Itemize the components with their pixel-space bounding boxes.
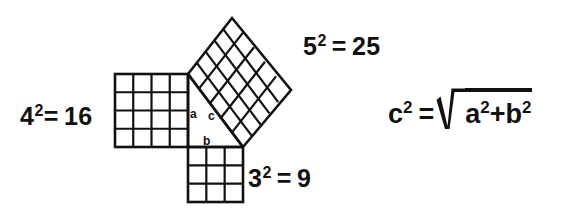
label-square-b-equation: 32=9 [248,166,311,191]
square-b-equals: = [277,164,292,192]
label-square-c-equation: 52=25 [303,34,381,59]
radical-expression: a2+b2 [435,95,531,130]
square-a-result: 16 [64,102,93,130]
square-b-result: 9 [297,164,311,192]
square-c-exponent: 2 [317,32,326,49]
vinculum-bar [465,88,531,92]
label-square-a-equation: 42=16 [20,104,93,129]
square-b-outline [188,147,243,202]
pythagorean-diagram-page: 42=16 52=25 32=9 a c b c2= a2+b2 [0,0,579,215]
radicand-a-exponent: 2 [480,98,489,117]
radicand-a-base: a [465,99,480,129]
square-on-leg-a [115,74,188,147]
square-a-base: 4 [20,102,34,130]
square-a-exponent: 2 [34,102,43,119]
radicand-b-exponent: 2 [522,98,531,117]
square-c-equals: = [332,32,347,60]
square-b-exponent: 2 [262,164,271,181]
square-root-icon [435,86,465,130]
square-on-hypotenuse [188,18,291,147]
pythagorean-formula: c2= a2+b2 [388,95,532,139]
label-triangle-leg-b: b [203,135,210,147]
radicand-plus: + [490,99,506,129]
formula-lhs-exponent: 2 [403,98,412,117]
label-triangle-leg-a: a [190,108,197,120]
formula-equals: = [419,99,435,130]
label-triangle-hypotenuse-c: c [208,110,215,122]
square-c-base: 5 [303,32,317,60]
formula-lhs-base: c [388,99,403,129]
square-c-result: 25 [352,32,381,60]
radicand: a2+b2 [465,97,531,130]
square-b-base: 3 [248,164,262,192]
radicand-b-base: b [506,99,523,129]
square-on-leg-b [188,147,243,202]
square-a-equals: = [44,102,59,130]
